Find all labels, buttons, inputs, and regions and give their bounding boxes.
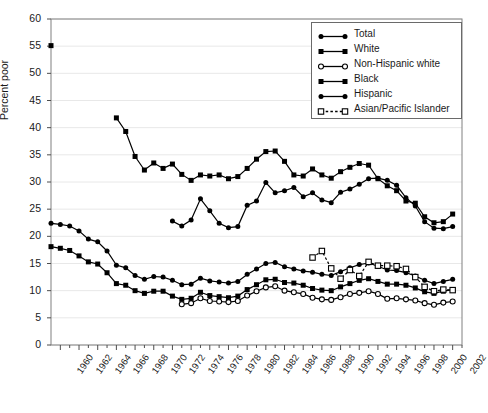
legend-item-non-hispanic-white[interactable]: Non-Hispanic white xyxy=(316,56,457,71)
data-point xyxy=(301,174,306,179)
y-tick-label: 60 xyxy=(11,12,41,24)
data-point xyxy=(77,253,82,258)
data-point xyxy=(114,263,119,268)
data-point xyxy=(133,154,138,159)
data-point xyxy=(347,187,352,192)
data-point xyxy=(329,200,334,205)
data-point xyxy=(282,188,287,193)
legend-marker xyxy=(343,34,348,39)
data-point xyxy=(291,266,296,271)
chart-legend: Total White Non-Hispanic white Black His… xyxy=(311,22,462,119)
data-point xyxy=(394,282,399,287)
data-point xyxy=(142,168,147,173)
legend-key-hispanic xyxy=(316,88,350,99)
data-point xyxy=(450,212,455,217)
data-point xyxy=(347,281,352,286)
data-point xyxy=(394,296,399,301)
data-point xyxy=(263,149,268,154)
data-point xyxy=(254,199,259,204)
legend-item-black[interactable]: Black xyxy=(316,71,457,86)
data-point xyxy=(245,287,250,292)
legend-item-total[interactable]: Total xyxy=(316,26,457,41)
data-point xyxy=(67,224,72,229)
data-point xyxy=(329,176,334,181)
data-point xyxy=(338,169,343,174)
data-point xyxy=(226,300,231,305)
data-point xyxy=(49,221,54,226)
legend-item-hispanic[interactable]: Hispanic xyxy=(316,86,457,101)
data-point xyxy=(366,259,371,264)
data-point xyxy=(394,188,399,193)
legend-item-white[interactable]: White xyxy=(316,41,457,56)
data-point xyxy=(441,287,446,292)
data-point xyxy=(385,282,390,287)
data-point xyxy=(450,287,455,292)
data-point xyxy=(114,115,119,120)
data-point xyxy=(161,166,166,171)
data-point xyxy=(403,195,408,200)
legend-marker xyxy=(319,49,324,54)
data-point xyxy=(170,294,175,299)
legend-item-asian-pacific-islander[interactable]: Asian/Pacific Islander xyxy=(316,101,457,116)
data-point xyxy=(263,261,268,266)
data-point xyxy=(207,298,212,303)
y-tick-label: 0 xyxy=(11,338,41,350)
y-tick-label: 55 xyxy=(11,39,41,51)
data-point xyxy=(422,219,427,224)
y-tick-label: 15 xyxy=(11,257,41,269)
data-point xyxy=(366,289,371,294)
data-point xyxy=(301,291,306,296)
data-point xyxy=(151,160,156,165)
data-point xyxy=(254,289,259,294)
y-tick-label: 35 xyxy=(11,148,41,160)
data-point xyxy=(170,162,175,167)
data-point xyxy=(123,265,128,270)
data-point xyxy=(385,178,390,183)
legend-label-asian-pacific-islander: Asian/Pacific Islander xyxy=(350,103,450,114)
legend-marker xyxy=(319,94,324,99)
data-point xyxy=(133,273,138,278)
data-point xyxy=(226,281,231,286)
data-point xyxy=(338,269,343,274)
data-point xyxy=(403,283,408,288)
data-point xyxy=(319,172,324,177)
data-point xyxy=(291,290,296,295)
data-point xyxy=(179,282,184,287)
data-point xyxy=(245,166,250,171)
data-point xyxy=(385,296,390,301)
data-point xyxy=(273,149,278,154)
data-point xyxy=(319,248,324,253)
data-point xyxy=(189,218,194,223)
data-point xyxy=(357,290,362,295)
series-total xyxy=(49,221,456,287)
data-point xyxy=(329,266,334,271)
data-point xyxy=(329,297,334,302)
data-point xyxy=(441,300,446,305)
y-tick-label: 45 xyxy=(11,94,41,106)
data-point xyxy=(347,291,352,296)
y-tick-label: 50 xyxy=(11,66,41,78)
data-point xyxy=(319,288,324,293)
data-point xyxy=(235,298,240,303)
legend-marker xyxy=(342,109,347,114)
data-point xyxy=(273,277,278,282)
data-point xyxy=(357,182,362,187)
legend-key-white xyxy=(316,43,350,54)
data-point xyxy=(282,280,287,285)
data-point xyxy=(189,282,194,287)
data-point xyxy=(422,278,427,283)
data-point xyxy=(263,180,268,185)
data-point xyxy=(245,203,250,208)
data-point xyxy=(226,176,231,181)
series-line xyxy=(172,178,452,229)
data-point xyxy=(254,157,259,162)
data-point xyxy=(95,239,100,244)
legend-label-hispanic: Hispanic xyxy=(350,88,392,99)
data-point xyxy=(347,267,352,272)
legend-key-asian-pacific-islander xyxy=(316,103,350,114)
data-point xyxy=(235,174,240,179)
data-point xyxy=(329,273,334,278)
data-point xyxy=(422,284,427,289)
data-point xyxy=(217,294,222,299)
series-hispanic xyxy=(170,176,455,232)
